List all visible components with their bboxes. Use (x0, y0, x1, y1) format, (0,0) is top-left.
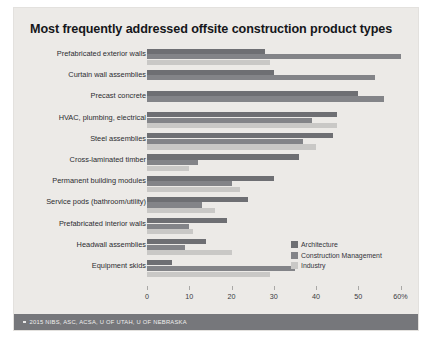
bar-construction-management (147, 139, 303, 144)
bar-construction-management (147, 202, 202, 207)
bar-architecture (147, 260, 172, 265)
bar-architecture (147, 218, 227, 223)
bar-group (147, 70, 409, 87)
bar-group (147, 91, 409, 108)
chart-category-row: Steel assemblies (14, 131, 418, 152)
x-axis-tick (189, 286, 190, 290)
bar-architecture (147, 49, 265, 54)
bar-group (147, 112, 409, 129)
x-axis-tick (274, 286, 275, 290)
bar-group (147, 176, 409, 193)
bullet-icon (23, 321, 26, 324)
bar-industry (147, 187, 240, 192)
legend-item[interactable]: Construction Management (291, 251, 411, 260)
bar-industry (147, 250, 232, 255)
chart-category-row: HVAC, plumbing, electrical (14, 110, 418, 131)
chart-category-row: Service pods (bathroom/utility) (14, 194, 418, 215)
bar-construction-management (147, 224, 189, 229)
x-axis-tick (316, 286, 317, 290)
x-axis-tick (232, 286, 233, 290)
source-footer: 2015 NIBS, ASC, ACSA, U OF UTAH, U OF NE… (14, 314, 418, 330)
x-axis-tick-label: 0 (145, 292, 149, 301)
bar-group (147, 154, 409, 171)
category-label: Curtain wall assemblies (0, 70, 146, 79)
legend-swatch-icon (291, 241, 298, 248)
chart-category-row: Prefabricated interior walls (14, 216, 418, 237)
bar-construction-management (147, 181, 232, 186)
chart-category-row: Curtain wall assemblies (14, 67, 418, 88)
x-axis-tick-label: 40 (312, 292, 320, 301)
chart-title: Most frequently addressed offsite constr… (30, 22, 410, 36)
bar-architecture (147, 197, 248, 202)
bar-architecture (147, 91, 358, 96)
x-axis-tick-label: 10 (185, 292, 193, 301)
bar-architecture (147, 112, 337, 117)
category-label: Cross-laminated timber (0, 155, 146, 164)
source-text: 2015 NIBS, ASC, ACSA, U OF UTAH, U OF NE… (30, 319, 187, 325)
chart-category-row: Permanent building modules (14, 173, 418, 194)
bar-construction-management (147, 54, 401, 59)
legend-swatch-icon (291, 252, 298, 259)
category-label: Prefabricated interior walls (0, 219, 146, 228)
bar-architecture (147, 176, 274, 181)
bar-group (147, 197, 409, 214)
bar-architecture (147, 133, 333, 138)
legend-item[interactable]: Industry (291, 261, 411, 270)
x-axis-tick (401, 286, 402, 290)
bar-construction-management (147, 75, 375, 80)
bar-industry (147, 208, 215, 213)
bar-industry (147, 144, 316, 149)
bar-construction-management (147, 96, 384, 101)
chart-category-row: Prefabricated exterior walls (14, 46, 418, 67)
chart-category-row: Cross-laminated timber (14, 152, 418, 173)
bar-construction-management (147, 266, 295, 271)
bar-architecture (147, 70, 274, 75)
bar-group (147, 49, 409, 66)
category-label: Prefabricated exterior walls (0, 49, 146, 58)
chart-legend: ArchitectureConstruction ManagementIndus… (291, 240, 411, 272)
x-axis-tick-label: 20 (228, 292, 236, 301)
bar-industry (147, 166, 189, 171)
x-axis-tick (147, 286, 148, 290)
x-axis-tick-label: 50 (354, 292, 362, 301)
x-axis-tick-label: 30 (270, 292, 278, 301)
category-label: HVAC, plumbing, electrical (0, 113, 146, 122)
bar-construction-management (147, 160, 198, 165)
category-label: Permanent building modules (0, 176, 146, 185)
bar-architecture (147, 239, 206, 244)
bar-construction-management (147, 118, 312, 123)
legend-label: Industry (301, 262, 326, 269)
category-label: Equipment skids (0, 261, 146, 270)
x-axis-tick (358, 286, 359, 290)
legend-label: Architecture (301, 241, 338, 248)
bar-architecture (147, 154, 299, 159)
bar-industry (147, 272, 270, 277)
category-label: Service pods (bathroom/utility) (0, 197, 146, 206)
bar-group (147, 218, 409, 235)
category-label: Steel assemblies (0, 134, 146, 143)
chart-figure: Most frequently addressed offsite constr… (14, 8, 418, 330)
bar-group (147, 133, 409, 150)
category-label: Precast concrete (0, 91, 146, 100)
x-axis-tick-label: 60% (393, 292, 407, 301)
bar-construction-management (147, 245, 185, 250)
bar-industry (147, 123, 337, 128)
category-label: Headwall assemblies (0, 240, 146, 249)
chart-category-row: Precast concrete (14, 88, 418, 109)
legend-label: Construction Management (301, 252, 382, 259)
legend-item[interactable]: Architecture (291, 240, 411, 249)
bar-industry (147, 229, 193, 234)
bar-industry (147, 60, 270, 65)
legend-swatch-icon (291, 262, 298, 269)
